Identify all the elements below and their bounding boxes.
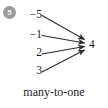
- arrow-neg1-to-4: [42, 36, 85, 44]
- mapping-diagram: −5 −1 2 3 4: [0, 0, 108, 86]
- source-value-3: 2: [22, 47, 42, 59]
- many-to-one-figure: 5 −5 −1 2 3 4 many-to-one: [0, 0, 108, 108]
- source-value-4: 3: [22, 65, 42, 77]
- arrow-neg5-to-4: [42, 16, 85, 40]
- source-value-1: −5: [22, 9, 42, 21]
- figure-caption: many-to-one: [0, 86, 108, 98]
- target-value: 4: [89, 39, 95, 51]
- source-value-2: −1: [22, 29, 42, 41]
